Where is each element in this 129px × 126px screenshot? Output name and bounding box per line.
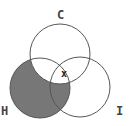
venn-diagram: C H I x xyxy=(0,0,129,126)
label-h: H xyxy=(1,104,8,118)
label-c: C xyxy=(57,8,64,22)
x-marker: x xyxy=(61,68,67,79)
label-i: I xyxy=(116,104,123,118)
shaded-region-h-minus-c xyxy=(0,0,129,126)
